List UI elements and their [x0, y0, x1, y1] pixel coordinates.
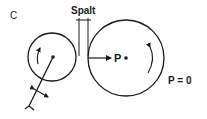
pressure-label: P = 0 [168, 76, 191, 86]
double-arrow-icon [34, 89, 48, 97]
roller-gap-diagram: C Spalt P P = 0 [0, 0, 207, 119]
panel-label: C [10, 11, 17, 21]
small-roller [28, 33, 76, 81]
gap-label: Spalt [71, 6, 95, 16]
rotation-arrow-icon [37, 48, 40, 64]
point-label: P [114, 53, 121, 64]
rotation-arrow-icon [148, 47, 153, 73]
large-roller-center-dot [124, 56, 128, 60]
diagram-graphic [0, 0, 207, 119]
